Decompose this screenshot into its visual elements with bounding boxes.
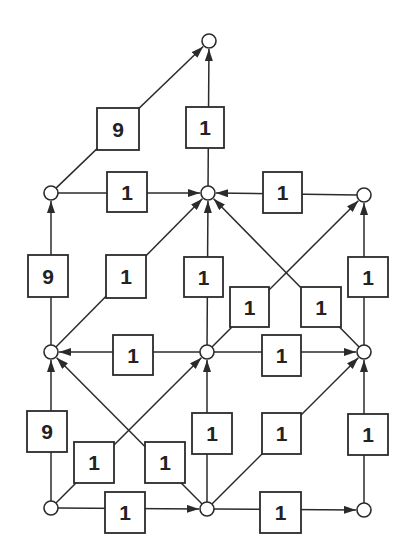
weight-box: 1 — [113, 335, 153, 375]
weight-label: 1 — [244, 296, 256, 319]
weight-box: 1 — [348, 414, 388, 455]
graph-svg: 91119111111191111111 — [0, 0, 408, 555]
weight-box: 1 — [186, 107, 224, 148]
graph-node-r2c0 — [44, 345, 58, 359]
weight-box: 1 — [107, 172, 147, 212]
weight-label: 1 — [206, 422, 218, 445]
weight-label: 1 — [127, 344, 139, 367]
graph-diagram: 91119111111191111111 — [0, 0, 408, 555]
graph-node-top — [202, 34, 216, 48]
weight-label: 1 — [159, 451, 171, 474]
weight-box: 9 — [97, 108, 139, 150]
weight-label: 9 — [112, 118, 124, 141]
weight-box: 1 — [106, 255, 146, 298]
graph-node-r3c1 — [200, 502, 214, 516]
weight-box: 1 — [145, 442, 185, 483]
weight-box: 9 — [27, 411, 67, 452]
weight-box: 1 — [105, 492, 145, 533]
weight-label: 1 — [120, 265, 132, 288]
weight-box: 1 — [184, 257, 223, 297]
graph-node-r1c0 — [44, 186, 58, 200]
weight-box: 1 — [262, 335, 301, 376]
graph-node-r1c2 — [357, 188, 371, 202]
weight-box: 1 — [262, 413, 301, 454]
weight-box: 1 — [260, 492, 301, 533]
weight-label: 1 — [198, 266, 210, 289]
weight-label: 9 — [42, 265, 54, 288]
graph-node-r3c2 — [357, 503, 371, 517]
weight-label: 1 — [277, 181, 289, 204]
graph-node-r3c0 — [44, 501, 58, 515]
weight-label: 9 — [41, 420, 53, 443]
weight-label: 1 — [88, 451, 100, 474]
weight-label: 1 — [119, 501, 131, 524]
weight-label: 1 — [199, 116, 211, 139]
weight-box: 9 — [28, 255, 68, 297]
weight-label: 1 — [275, 501, 287, 524]
weight-label: 1 — [315, 296, 327, 319]
weight-box: 1 — [348, 257, 388, 297]
weight-box: 1 — [74, 442, 114, 483]
weight-box: 1 — [192, 413, 232, 454]
graph-node-r1c1 — [201, 186, 215, 200]
weight-box: 1 — [230, 287, 269, 327]
weight-label: 1 — [362, 423, 374, 446]
graph-node-r2c1 — [200, 345, 214, 359]
graph-node-r2c2 — [357, 345, 371, 359]
weight-label: 1 — [121, 181, 133, 204]
weight-label: 1 — [362, 266, 374, 289]
weight-label: 1 — [276, 344, 288, 367]
weight-box: 1 — [301, 287, 341, 327]
weight-label: 1 — [276, 422, 288, 445]
weight-box: 1 — [263, 172, 302, 213]
